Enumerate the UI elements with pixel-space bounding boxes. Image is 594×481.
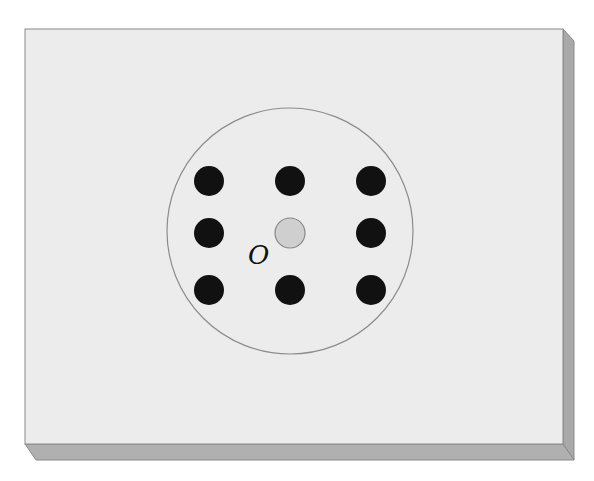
center-label: O — [248, 240, 269, 270]
dot — [194, 218, 224, 248]
dot — [356, 275, 386, 305]
dot — [275, 275, 305, 305]
dot — [194, 275, 224, 305]
board-bottom-edge — [25, 444, 574, 460]
dot — [356, 166, 386, 196]
center-dot — [275, 218, 305, 248]
dot — [356, 218, 386, 248]
dot — [275, 166, 305, 196]
diagram-canvas: O — [0, 0, 594, 481]
board-right-edge — [563, 29, 574, 460]
dot — [194, 166, 224, 196]
